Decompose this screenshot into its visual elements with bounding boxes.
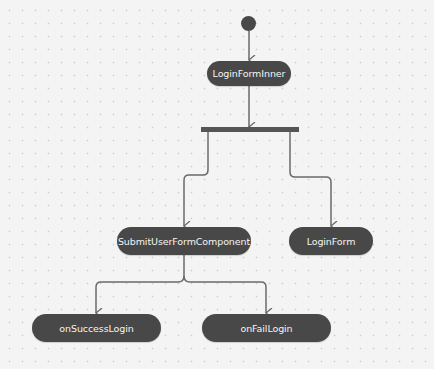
node-submituserformcomponent[interactable]: SubmitUserFormComponent [117, 227, 251, 255]
node-label: SubmitUserFormComponent [118, 236, 250, 247]
edge-submit-to-onsuccesslogin [96, 255, 184, 313]
node-label: onFailLogin [240, 323, 292, 334]
node-loginform[interactable]: LoginForm [289, 227, 373, 255]
edge-fork-to-loginform [290, 132, 331, 226]
node-onsuccesslogin[interactable]: onSuccessLogin [32, 314, 161, 342]
node-label: LoginForm [307, 236, 356, 247]
node-label: onSuccessLogin [59, 323, 133, 334]
edge-submit-to-onfaillogin [184, 276, 266, 313]
node-onfaillogin[interactable]: onFailLogin [202, 314, 331, 342]
node-loginforminner[interactable]: LoginFormInner [207, 61, 291, 86]
edge-fork-to-submituserformcomponent [184, 132, 208, 226]
start-node [241, 16, 256, 31]
node-label: LoginFormInner [213, 68, 286, 79]
fork-bar [201, 127, 299, 132]
